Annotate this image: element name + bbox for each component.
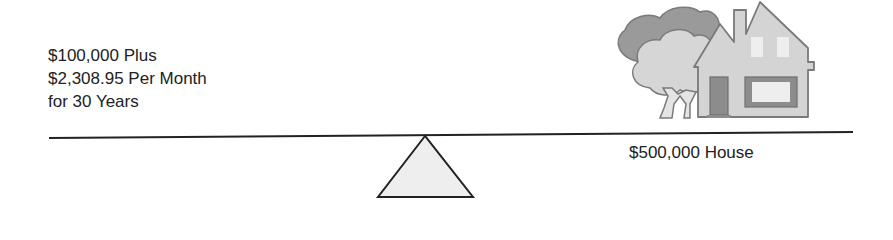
house-price-label: $500,000 House	[629, 143, 754, 163]
term-line: for 30 Years	[48, 90, 207, 113]
payment-terms-text: $100,000 Plus $2,308.95 Per Month for 30…	[48, 44, 207, 113]
down-payment-line: $100,000 Plus	[48, 44, 207, 67]
fulcrum-triangle	[378, 136, 473, 197]
balance-beam	[49, 132, 853, 138]
monthly-payment-line: $2,308.95 Per Month	[48, 67, 207, 90]
